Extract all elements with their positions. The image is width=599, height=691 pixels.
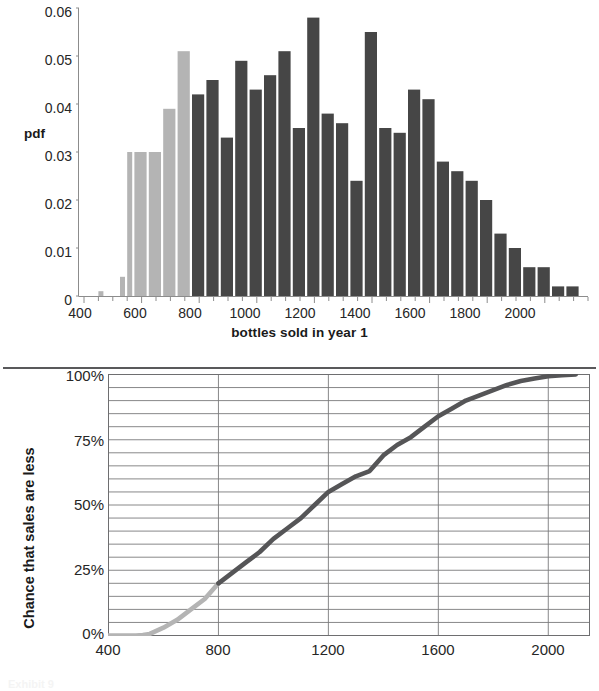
bottom-xtick-label: 2000	[513, 641, 583, 658]
top-xtick-label: 1400	[325, 305, 385, 321]
bottom-chart-y-axis-title: Chance that sales are less	[21, 423, 37, 653]
top-ytick-label: 0.06	[18, 4, 72, 20]
bottom-ytick-label: 100%	[38, 367, 104, 384]
bottom-xtick-label: 800	[183, 641, 253, 658]
top-xtick-label: 600	[105, 305, 165, 321]
top-chart-plot-area	[76, 4, 596, 324]
bottom-ytick-label: 75%	[38, 432, 104, 449]
top-ytick-label: 0.02	[18, 196, 72, 212]
top-xtick-label: 800	[160, 305, 220, 321]
top-ytick-label: 0.04	[18, 100, 72, 116]
top-xtick-label: 1000	[215, 305, 275, 321]
bottom-chart-plot-area	[108, 374, 590, 636]
bottom-ytick-label: 50%	[38, 496, 104, 513]
bottom-xtick-label: 400	[73, 641, 143, 658]
bottom-ytick-label: 25%	[38, 561, 104, 578]
cdf-line-chart: Chance that sales are less 100% 75% 50% …	[0, 355, 599, 691]
top-xtick-label: 1800	[435, 305, 495, 321]
top-xtick-label: 1200	[270, 305, 330, 321]
top-xtick-label: 2000	[490, 305, 550, 321]
top-xtick-label: 400	[50, 305, 110, 321]
figure-caption: Exhibit 9	[8, 678, 54, 690]
top-ytick-label: 0.03	[18, 148, 72, 164]
bottom-xtick-label: 1200	[293, 641, 363, 658]
bottom-xtick-label: 1600	[403, 641, 473, 658]
top-xtick-label: 1600	[380, 305, 440, 321]
bottom-ytick-label: 0%	[38, 625, 104, 642]
top-chart-y-axis-title: pdf	[24, 126, 45, 141]
gridlines	[109, 375, 590, 636]
top-chart-x-axis-title: bottles sold in year 1	[0, 325, 599, 340]
top-ytick-label: 0.01	[18, 244, 72, 260]
top-ytick-label: 0.05	[18, 52, 72, 68]
histogram-bars	[98, 18, 578, 296]
pdf-histogram-chart: pdf 0.06 0.05 0.04 0.03 0.02 0.01 0 400 …	[0, 0, 599, 348]
